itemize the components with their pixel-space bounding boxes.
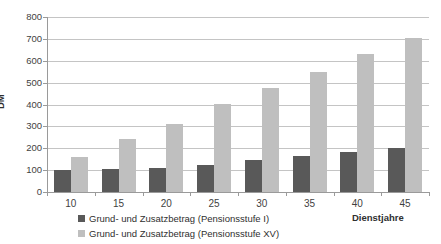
- bar-series-1[interactable]: [405, 38, 422, 192]
- bar-series-1[interactable]: [310, 72, 327, 192]
- bar-groups: [47, 17, 429, 192]
- bar-series-0[interactable]: [54, 170, 71, 192]
- legend-label-series-1: Grund- und Zusatzbetrag (Pensionsstufe X…: [89, 228, 279, 239]
- bar-series-0[interactable]: [197, 165, 214, 192]
- y-axis-labels: DM 0100200300400500600700800: [4, 17, 42, 192]
- x-axis-tick-label: 30: [238, 198, 286, 212]
- bar-series-0[interactable]: [293, 156, 310, 192]
- bar-group: [95, 17, 143, 192]
- x-axis-tick: [238, 192, 239, 196]
- y-axis-tick-label: 200: [8, 143, 42, 153]
- legend-swatch-icon-series-1: [78, 230, 85, 237]
- x-axis-tick-label: 45: [381, 198, 429, 212]
- y-axis-tick-label: 0: [8, 187, 42, 197]
- y-axis-tick-label: 300: [8, 121, 42, 131]
- y-axis-title: DM: [0, 94, 6, 109]
- bar-series-1[interactable]: [357, 54, 374, 192]
- clipped-header-text: [0, 0, 441, 9]
- bar-series-1[interactable]: [166, 124, 183, 192]
- chart-legend: Grund- und Zusatzbetrag (Pensionsstufe I…: [78, 211, 378, 241]
- y-axis-tick-label: 400: [8, 100, 42, 110]
- bar-series-0[interactable]: [102, 169, 119, 192]
- bar-group: [143, 17, 191, 192]
- bar-series-0[interactable]: [388, 148, 405, 192]
- bar-group: [190, 17, 238, 192]
- x-axis-tick-label: 10: [47, 198, 95, 212]
- y-axis-tick-label: 600: [8, 56, 42, 66]
- bar-group: [47, 17, 95, 192]
- bar-series-1[interactable]: [119, 139, 136, 192]
- bar-series-1[interactable]: [262, 88, 279, 192]
- x-axis-tick: [47, 192, 48, 196]
- bar-series-1[interactable]: [214, 104, 231, 192]
- x-axis-tick-label: 20: [143, 198, 191, 212]
- bar-group: [238, 17, 286, 192]
- x-axis-tick: [334, 192, 335, 196]
- x-axis-tick: [190, 192, 191, 196]
- x-axis-tick: [143, 192, 144, 196]
- legend-swatch-icon-series-0: [78, 215, 85, 222]
- x-axis-tick: [429, 192, 430, 196]
- y-axis-tick-label: 800: [8, 12, 42, 22]
- bar-chart: DM 0100200300400500600700800 10152025303…: [0, 0, 441, 244]
- y-axis-tick-label: 500: [8, 78, 42, 88]
- legend-label-series-0: Grund- und Zusatzbetrag (Pensionsstufe I…: [89, 213, 269, 224]
- bar-series-1[interactable]: [71, 157, 88, 192]
- x-axis-tick: [286, 192, 287, 196]
- y-axis-tick-label: 100: [8, 165, 42, 175]
- legend-item-series-0: Grund- und Zusatzbetrag (Pensionsstufe I…: [78, 211, 378, 226]
- x-axis-labels: 1015202530354045: [47, 198, 429, 212]
- bar-series-0[interactable]: [149, 168, 166, 192]
- x-axis-tick: [381, 192, 382, 196]
- x-axis-tick-label: 40: [334, 198, 382, 212]
- bar-series-0[interactable]: [340, 152, 357, 192]
- x-axis-tick-label: 35: [286, 198, 334, 212]
- bar-group: [334, 17, 382, 192]
- bar-group: [286, 17, 334, 192]
- x-axis-tick: [95, 192, 96, 196]
- y-axis-tick-label: 700: [8, 34, 42, 44]
- x-axis-tick-label: 15: [95, 198, 143, 212]
- bar-series-0[interactable]: [245, 160, 262, 192]
- bar-group: [381, 17, 429, 192]
- x-axis-tick-label: 25: [190, 198, 238, 212]
- legend-item-series-1: Grund- und Zusatzbetrag (Pensionsstufe X…: [78, 226, 378, 241]
